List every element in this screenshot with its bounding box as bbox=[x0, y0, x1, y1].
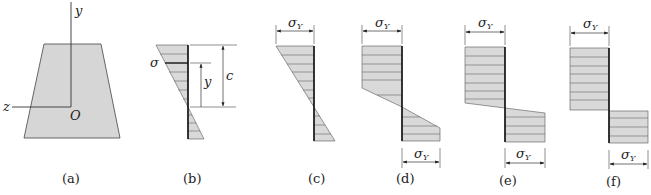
sigma-y-label-top: σY bbox=[375, 15, 390, 31]
caption-e: (e) bbox=[499, 173, 517, 188]
caption-f: (f) bbox=[606, 174, 621, 189]
panel-e-mostly-plastic: σY σY (e) bbox=[465, 15, 545, 188]
sigma-y-label-bottom: σY bbox=[516, 146, 531, 162]
sigma-y-label-bottom: σY bbox=[621, 147, 636, 163]
y-label: y bbox=[203, 74, 212, 89]
y-axis-label: y bbox=[74, 3, 83, 18]
sigma-y-label-top: σY bbox=[478, 15, 493, 31]
sigma-label: σ bbox=[150, 55, 160, 70]
panel-c-onset-yield: σY (c) bbox=[276, 15, 335, 186]
caption-b: (b) bbox=[183, 171, 201, 186]
caption-d: (d) bbox=[396, 171, 414, 186]
sigma-y-label-top: σY bbox=[583, 16, 598, 32]
sigma-y-label-top: σY bbox=[288, 15, 303, 31]
panel-a-cross-section: y z O (a) bbox=[2, 2, 120, 186]
caption-a: (a) bbox=[62, 171, 80, 186]
sigma-y-label-bottom: σY bbox=[414, 146, 429, 162]
origin-label: O bbox=[70, 108, 81, 123]
caption-c: (c) bbox=[308, 171, 325, 186]
panel-d-partially-plastic: σY σY (d) bbox=[362, 15, 440, 186]
stress-distribution-figure: y z O (a) σ c y (b) bbox=[0, 0, 651, 195]
panel-f-fully-plastic: σY σY (f) bbox=[570, 16, 648, 189]
z-axis-label: z bbox=[2, 99, 10, 114]
trapezoid-section bbox=[24, 44, 120, 138]
panel-b-elastic: σ c y (b) bbox=[150, 45, 237, 186]
c-label: c bbox=[226, 68, 234, 83]
